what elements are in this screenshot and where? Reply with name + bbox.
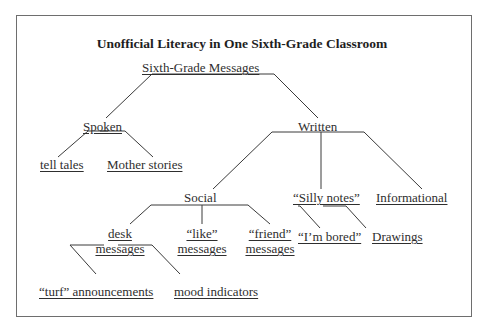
edge-social-desk xyxy=(130,205,202,224)
node-label-line1: desk xyxy=(108,226,132,241)
edge-spoken-mother xyxy=(100,131,153,157)
node-label: Social xyxy=(184,190,217,205)
node-social: Social xyxy=(184,190,217,205)
node-label: Drawings xyxy=(372,229,423,244)
node-im-bored: “I’m bored” xyxy=(298,229,361,244)
node-label: tell tales xyxy=(40,157,84,172)
node-desk-messages: desk messages xyxy=(90,226,150,256)
edge-root-written xyxy=(250,74,318,118)
edge-root-spoken xyxy=(106,74,250,118)
node-label: Written xyxy=(298,119,337,134)
node-label: “turf” announcements xyxy=(39,284,153,299)
node-sixth-grade-messages: Sixth-Grade Messages xyxy=(142,60,259,75)
node-label: mood indicators xyxy=(174,284,258,299)
node-tell-tales: tell tales xyxy=(40,157,84,172)
node-friend-messages: “friend” messages xyxy=(238,226,302,256)
node-turf-announcements: “turf” announcements xyxy=(39,284,153,299)
node-label: Sixth-Grade Messages xyxy=(142,60,259,75)
node-like-messages: “like” messages xyxy=(170,226,234,256)
node-label: Spoken xyxy=(83,119,122,134)
node-silly-notes: “Silly notes” xyxy=(293,190,360,205)
node-spoken: Spoken xyxy=(83,119,122,134)
edge-silly-drawings xyxy=(323,206,366,228)
node-mood-indicators: mood indicators xyxy=(174,284,258,299)
node-written: Written xyxy=(298,119,337,134)
node-label: Mother stories xyxy=(107,157,182,172)
node-label: “I’m bored” xyxy=(298,229,361,244)
edge-spoken-telltales xyxy=(58,131,108,157)
edge-written-social xyxy=(213,132,322,189)
edge-written-informational xyxy=(322,132,422,189)
node-label-line2: messages xyxy=(177,241,226,256)
node-label-line1: “friend” xyxy=(249,226,292,241)
node-label-line2: messages xyxy=(245,241,294,256)
node-mother-stories: Mother stories xyxy=(107,157,182,172)
node-label: “Silly notes” xyxy=(293,190,360,205)
node-label: Informational xyxy=(376,190,447,205)
node-informational: Informational xyxy=(376,190,447,205)
node-label-line2: messages xyxy=(95,241,144,256)
edge-social-friend xyxy=(202,205,270,224)
node-drawings: Drawings xyxy=(372,229,423,244)
node-label-line1: “like” xyxy=(186,226,217,241)
edge-silly-bored xyxy=(298,206,320,228)
